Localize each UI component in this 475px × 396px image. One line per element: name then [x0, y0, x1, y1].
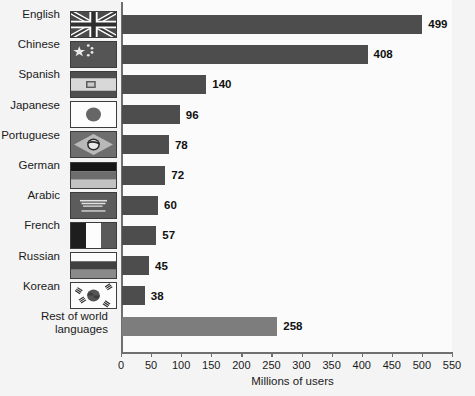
x-tick: [362, 352, 363, 357]
flag-china-icon: [70, 41, 117, 68]
flag-spain-icon: [70, 71, 117, 98]
bar-value-label: 38: [151, 290, 164, 302]
x-tick-label: 50: [145, 359, 157, 371]
x-tick: [211, 352, 212, 357]
x-tick-label: 0: [118, 359, 124, 371]
x-tick-label: 350: [322, 359, 340, 371]
x-tick: [181, 352, 182, 357]
bar-row: French 57: [0, 219, 475, 251]
x-tick: [121, 352, 122, 357]
bar: [122, 105, 180, 124]
bar-value-label: 57: [162, 229, 175, 241]
bar-value-label: 140: [212, 78, 231, 90]
bar-row: Japanese 96: [0, 99, 475, 131]
category-label: Rest of world languages: [0, 310, 108, 336]
category-label: Spanish: [0, 68, 60, 81]
bar: [122, 166, 165, 185]
x-axis-label-wrap: Millions of users: [0, 375, 475, 387]
x-tick: [332, 352, 333, 357]
x-tick-label: 150: [202, 359, 220, 371]
bar-row: Rest of world languages258: [0, 310, 475, 342]
flag-germany-icon: [70, 162, 117, 189]
flag-south-korea-icon: [70, 282, 117, 309]
bar-row: Portuguese 78: [0, 129, 475, 161]
bar-row: German 72: [0, 159, 475, 191]
x-tick: [452, 352, 453, 357]
bar: [122, 135, 169, 154]
x-tick-label: 500: [413, 359, 431, 371]
bar: [122, 286, 145, 305]
category-label: Chinese: [0, 38, 60, 51]
x-tick-label: 250: [262, 359, 280, 371]
bar-value-label: 408: [374, 48, 393, 60]
x-tick: [392, 352, 393, 357]
category-label: Arabic: [0, 189, 60, 202]
x-axis-label: Millions of users: [141, 375, 333, 387]
x-tick-label: 550: [443, 359, 461, 371]
bar: [122, 256, 149, 275]
category-label: English: [0, 8, 60, 21]
bar-value-label: 258: [283, 320, 302, 332]
flag-japan-icon: [70, 101, 117, 128]
x-tick-label: 400: [353, 359, 371, 371]
flag-united-kingdom-icon: [70, 11, 117, 38]
bar-row: Chinese 408: [0, 38, 475, 70]
x-tick: [241, 352, 242, 357]
bar: [122, 45, 368, 64]
bar: [122, 15, 422, 34]
flag-brazil-icon: [70, 131, 117, 158]
x-tick: [302, 352, 303, 357]
flag-russia-icon: [70, 252, 117, 279]
x-tick: [271, 352, 272, 357]
bar-row: English 499: [0, 8, 475, 40]
bar-value-label: 78: [175, 139, 188, 151]
bar-chart: English 499Chinese 408Spanish 140Japanes…: [0, 0, 475, 396]
bar-value-label: 60: [164, 199, 177, 211]
bar: [122, 317, 277, 336]
flag-france-icon: [70, 222, 117, 249]
bar-value-label: 72: [171, 169, 184, 181]
x-axis-line: [121, 352, 452, 354]
bar-row: Spanish 140: [0, 68, 475, 100]
x-tick-label: 100: [172, 359, 190, 371]
x-tick-label: 200: [232, 359, 250, 371]
x-tick-label: 450: [383, 359, 401, 371]
category-label: Portuguese: [0, 129, 60, 142]
bar-value-label: 499: [428, 18, 447, 30]
bar: [122, 196, 158, 215]
bar-row: Russian 45: [0, 250, 475, 282]
category-label: Japanese: [0, 99, 60, 112]
bar: [122, 226, 156, 245]
x-tick-label: 300: [292, 359, 310, 371]
flag-saudi-arabia-icon: [70, 192, 117, 219]
category-label: German: [0, 159, 60, 172]
bar-value-label: 45: [155, 260, 168, 272]
category-label: French: [0, 219, 60, 232]
bar-value-label: 96: [186, 109, 199, 121]
bar-row: Korean 38: [0, 280, 475, 312]
bar-row: Arabic 60: [0, 189, 475, 221]
x-tick: [151, 352, 152, 357]
category-label: Russian: [0, 250, 60, 263]
category-label: Korean: [0, 280, 60, 293]
x-tick: [422, 352, 423, 357]
bar: [122, 75, 206, 94]
